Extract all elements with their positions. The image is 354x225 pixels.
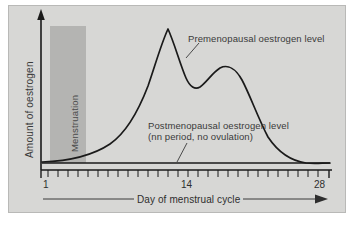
x-tick-label-mid: 14 bbox=[181, 179, 192, 190]
xaxis-arrow-icon bbox=[315, 195, 328, 204]
y-axis-label: Amount of oestrogen bbox=[24, 61, 35, 158]
x-axis-ticks bbox=[48, 170, 318, 177]
y-axis-arrow-icon bbox=[37, 9, 45, 20]
x-tick-label-start: 1 bbox=[43, 179, 49, 190]
figure-container: Amount of oestrogen Menstruation Premeno… bbox=[0, 0, 354, 225]
postmenopausal-annotation-line1: Postmenopausal oestrogen level bbox=[148, 120, 289, 131]
menstruation-band-label: Menstruation bbox=[69, 95, 80, 152]
postmenopausal-annotation-line2: (nn period, no ovulation) bbox=[148, 131, 253, 142]
x-tick-label-end: 28 bbox=[314, 179, 325, 190]
menstruation-band bbox=[50, 26, 86, 163]
premenopausal-leader-line bbox=[186, 43, 199, 58]
x-axis-title: Day of menstrual cycle bbox=[137, 194, 240, 205]
postmenopausal-leader-line bbox=[177, 143, 187, 162]
premenopausal-annotation: Premenopausal oestrogen level bbox=[188, 33, 325, 44]
